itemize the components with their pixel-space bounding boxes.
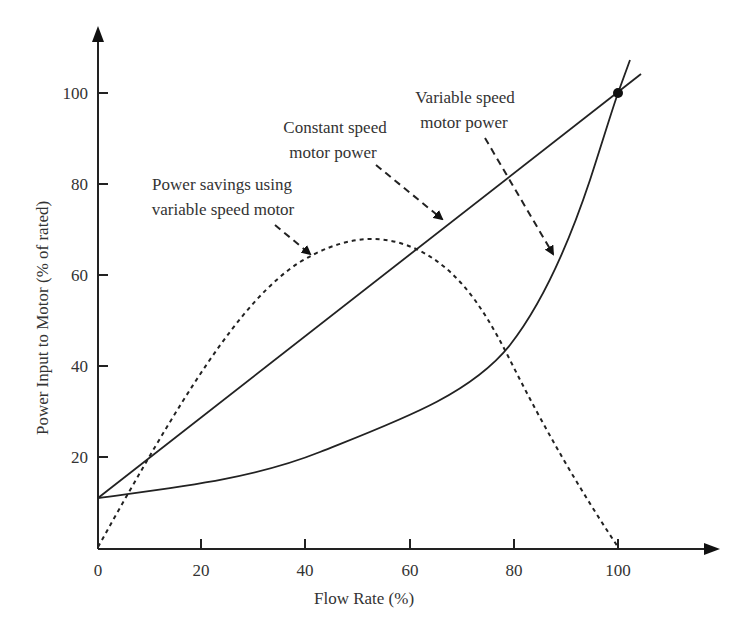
y-tick-60: 60	[71, 266, 88, 285]
x-tick-0: 0	[94, 561, 103, 580]
series-power-savings-dotted	[98, 239, 618, 547]
y-tick-100: 100	[63, 84, 89, 103]
arrow-icon	[485, 138, 553, 254]
x-tick-80: 80	[506, 561, 523, 580]
x-axis-title: Flow Rate (%)	[314, 589, 414, 608]
svg-text:variable speed motor: variable speed motor	[152, 200, 295, 219]
chart-canvas: 20 40 60 80 100 Power Input to Motor (% …	[0, 0, 752, 640]
svg-text:Variable speed: Variable speed	[415, 88, 515, 107]
svg-text:Constant speed: Constant speed	[283, 118, 387, 137]
y-tick-80: 80	[71, 175, 88, 194]
y-axis-title: Power Input to Motor (% of rated)	[33, 201, 52, 435]
svg-text:Power savings using: Power savings using	[152, 175, 292, 194]
svg-text:motor power: motor power	[420, 113, 508, 132]
arrow-icon	[275, 225, 310, 254]
annotation-constant-speed: Constant speed motor power	[283, 118, 442, 219]
svg-text:motor power: motor power	[289, 143, 377, 162]
annotation-power-savings: Power savings using variable speed motor	[152, 175, 310, 254]
x-tick-60: 60	[402, 561, 419, 580]
y-axis: 20 40 60 80 100 Power Input to Motor (% …	[33, 26, 108, 549]
rated-point-marker	[613, 88, 623, 98]
y-tick-20: 20	[71, 448, 88, 467]
series-constant-speed-line	[98, 74, 641, 498]
x-axis-arrow-icon	[704, 543, 720, 555]
x-tick-20: 20	[193, 561, 210, 580]
x-tick-40: 40	[297, 561, 314, 580]
x-axis: 0 20 40 60 80 100 Flow Rate (%)	[94, 539, 720, 608]
annotation-variable-speed: Variable speed motor power	[415, 88, 553, 254]
y-axis-arrow-icon	[92, 26, 104, 42]
arrow-icon	[376, 165, 442, 219]
y-tick-40: 40	[71, 357, 88, 376]
x-tick-100: 100	[605, 561, 631, 580]
